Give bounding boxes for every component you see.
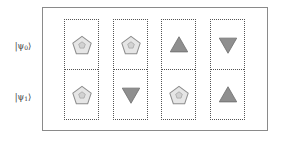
triangle-down-icon [217,34,239,56]
pentagon-icon [71,34,93,56]
shape-grid [43,8,267,130]
grid-cell-c4-r1 [211,70,244,119]
figure-outer-frame: |ψ0⟩ |ψ1⟩ [42,7,268,131]
pentagon-icon [71,84,93,106]
row-label-psi0-prefix: |ψ [15,41,25,51]
grid-column-1 [64,19,99,120]
grid-column-2 [113,19,148,120]
row-label-psi0: |ψ0⟩ [3,42,43,51]
grid-cell-c2-r0 [114,20,147,70]
grid-cell-c1-r0 [65,20,98,70]
triangle-up-icon [168,34,190,56]
grid-cell-c2-r1 [114,70,147,119]
row-label-psi1-prefix: |ψ [15,92,25,102]
triangle-up-icon [217,84,239,106]
grid-column-3 [161,19,196,120]
row-label-psi1-suffix: ⟩ [28,92,31,102]
pentagon-icon [120,34,142,56]
grid-column-4 [210,19,245,120]
grid-cell-c1-r1 [65,70,98,119]
row-label-psi1: |ψ1⟩ [3,93,43,102]
row-label-psi0-suffix: ⟩ [28,41,31,51]
pentagon-icon [168,84,190,106]
grid-cell-c4-r0 [211,20,244,70]
triangle-down-icon [120,84,142,106]
grid-cell-c3-r1 [162,70,195,119]
figure-canvas: |ψ0⟩ |ψ1⟩ [0,0,281,141]
grid-cell-c3-r0 [162,20,195,70]
